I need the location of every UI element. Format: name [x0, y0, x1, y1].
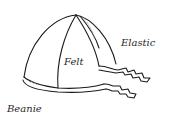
hat-center-seam [58, 15, 76, 88]
elastic-ribbon-lower [104, 84, 136, 98]
hat-band-top [24, 77, 104, 88]
label-felt: Felt [64, 57, 84, 67]
label-beanie: Beanie [7, 104, 42, 114]
elastic-ribbon-upper [99, 66, 150, 82]
hat-dome-outline [24, 15, 76, 77]
label-elastic: Elastic [121, 38, 155, 48]
